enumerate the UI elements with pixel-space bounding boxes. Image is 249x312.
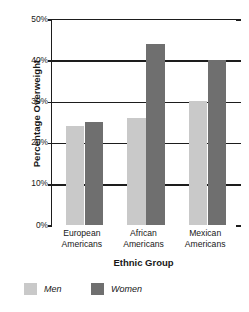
y-axis-tick-mark-right [236,19,241,21]
x-axis-tick-label-line: Mexican [174,228,236,239]
y-axis-tick-mark [48,60,52,62]
plot-area [51,19,236,225]
y-axis-tick-mark [48,19,52,21]
x-axis-title: Ethnic Group [51,257,236,268]
y-axis-tick-labels: 0%10%20%30%40%50% [22,0,48,312]
y-axis-tick-mark [48,225,52,227]
x-axis-tick-label-line: European [51,228,113,239]
legend-item-men[interactable]: Men [24,283,62,295]
y-axis-tick-label: 40% [22,56,48,64]
bar-men-african-americans [127,118,146,225]
y-axis-tick-label: 20% [22,138,48,146]
y-axis-tick-mark-right [236,60,241,62]
y-axis-tick-mark-right [236,143,241,145]
legend-swatch-men [24,283,37,295]
legend-label-women: Women [111,284,142,294]
y-axis-tick-mark-right [236,102,241,104]
y-axis-tick-label: 0% [22,221,48,229]
bar-men-mexican-americans [189,101,208,225]
y-axis-tick-label: 10% [22,179,48,187]
legend-swatch-women [91,283,104,295]
legend-item-women[interactable]: Women [91,283,142,295]
y-axis-tick-label: 30% [22,97,48,105]
chart-legend: MenWomen [24,283,224,299]
x-axis-tick-label: MexicanAmericans [174,228,236,250]
bar-women-mexican-americans [208,60,227,225]
x-axis-tick-label-line: Americans [113,239,175,250]
x-axis-tick-label-line: Americans [174,239,236,250]
y-axis-tick-mark [48,184,52,186]
x-axis-tick-label-line: Americans [51,239,113,250]
bar-chart-figure: Percentage Overweight 0%10%20%30%40%50% … [0,0,249,312]
y-axis-tick-label: 50% [22,15,48,23]
x-axis-tick-label: EuropeanAmericans [51,228,113,250]
y-axis-tick-mark [48,143,52,145]
y-axis-tick-mark [48,102,52,104]
y-axis-tick-mark-right [236,225,241,227]
bar-women-european-americans [85,122,104,225]
bar-women-african-americans [146,44,165,225]
x-axis-tick-labels: EuropeanAmericansAfricanAmericansMexican… [51,228,236,260]
bar-men-european-americans [66,126,85,225]
y-axis-tick-mark-right [236,184,241,186]
x-axis-tick-label-line: African [113,228,175,239]
x-axis-tick-label: AfricanAmericans [113,228,175,250]
legend-label-men: Men [44,284,62,294]
